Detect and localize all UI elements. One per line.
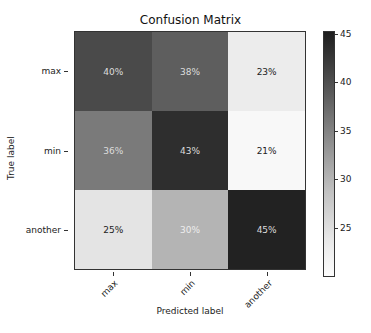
matrix-cell: 25% — [75, 190, 152, 269]
matrix-cell: 43% — [152, 111, 229, 190]
y-tick-label: another — [26, 225, 68, 235]
matrix-cell: 30% — [152, 190, 229, 269]
y-axis-title: True label — [6, 136, 16, 180]
y-tick-label: max — [41, 66, 68, 76]
x-tick-label: min — [178, 278, 197, 297]
confusion-matrix: 40% 38% 23% 36% 43% 21% 25% 30% 45% — [74, 31, 306, 270]
matrix-cell: 23% — [228, 32, 305, 111]
matrix-cell: 45% — [228, 190, 305, 269]
matrix-cell: 21% — [228, 111, 305, 190]
colorbar-tick: 45 — [335, 29, 351, 39]
colorbar-tick: 40 — [335, 77, 351, 87]
chart-title: Confusion Matrix — [74, 13, 307, 27]
colorbar-tick: 30 — [335, 174, 351, 184]
matrix-cell: 36% — [75, 111, 152, 190]
colorbar-tick: 25 — [335, 223, 351, 233]
colorbar — [323, 31, 335, 277]
matrix-cell: 40% — [75, 32, 152, 111]
matrix-cell: 38% — [152, 32, 229, 111]
x-axis-title: Predicted label — [74, 306, 306, 316]
x-tick — [190, 272, 191, 276]
x-tick — [267, 272, 268, 276]
x-tick — [113, 272, 114, 276]
y-tick-label: min — [44, 146, 68, 156]
colorbar-tick: 35 — [335, 126, 351, 136]
x-tick-label: max — [99, 278, 120, 299]
